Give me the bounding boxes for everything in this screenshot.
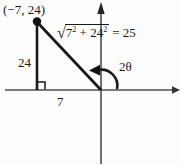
y-axis-arrowhead-icon [97,2,104,14]
vertical-leg-label: 24 [18,56,31,69]
x-axis-arrowhead-icon [172,86,180,94]
radicand: 72 + 242 [65,24,109,40]
trigonometry-diagram: (−7, 24) 24 7 2θ √ 72 + 242 = 25 [0,0,181,165]
horizontal-leg-label: 7 [57,95,64,108]
angle-label: 2θ [119,60,132,73]
hypotenuse-equals-value: = 25 [112,24,136,39]
point-coordinate-label: (−7, 24) [3,3,45,16]
radicand-term-2-base: 24 [90,25,103,40]
x-axis [5,86,180,94]
terminal-point-dot [33,17,41,25]
angle-arc-arrowhead-icon [89,65,100,76]
hypotenuse-expression: √ 72 + 242 = 25 [57,24,136,40]
angle-arc-2theta [89,65,117,89]
radicand-operator: + [80,25,87,40]
radical-sign-icon: √ [57,25,66,41]
radicand-term-1-exponent: 2 [72,25,76,34]
radical-group: √ 72 + 242 [57,24,109,40]
radicand-term-2-exponent: 2 [103,25,107,34]
